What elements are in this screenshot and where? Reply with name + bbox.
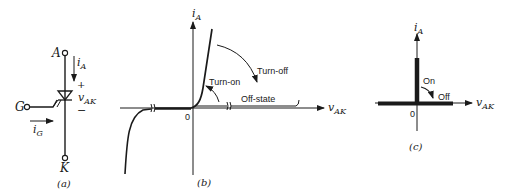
caption-b: (b) (197, 177, 211, 188)
c-x-axis-label: vAK (476, 96, 495, 111)
label-gate: G (15, 100, 25, 114)
label-turn-on: Turn-on (209, 77, 240, 87)
label-off-state: Off-state (241, 94, 275, 104)
c-y-axis-label: iA (414, 21, 424, 36)
gate-terminal (24, 104, 29, 109)
break-mark-right (227, 102, 231, 110)
gate-lead (30, 100, 57, 107)
thyristor-figure: A G K iA + vAK − iG (a) iA vAK 0 Turn-on… (0, 0, 510, 195)
label-cathode: K (59, 161, 70, 175)
on-to-off-arrow-icon (421, 87, 433, 98)
label-on: On (423, 76, 435, 86)
b-x-axis-label: vAK (328, 101, 347, 116)
caption-c: (c) (409, 141, 423, 152)
on-state-curve (191, 29, 212, 108)
turn-on-arrow-icon (206, 86, 219, 102)
gate-hatch (53, 100, 61, 107)
label-anode-current: iA (77, 56, 87, 71)
panel-a-thyristor-symbol (24, 50, 74, 160)
cathode-terminal (62, 155, 67, 160)
c-origin-label: 0 (410, 109, 415, 119)
label-turn-off: Turn-off (257, 66, 289, 76)
anode-terminal (62, 50, 67, 55)
reverse-breakdown-curve (125, 109, 151, 174)
label-minus: − (77, 104, 86, 117)
b-origin-label: 0 (185, 112, 190, 122)
label-anode: A (51, 46, 61, 60)
label-plus: + (77, 79, 85, 90)
panel-b-iv-characteristic (120, 22, 324, 175)
label-off: Off (438, 92, 450, 102)
caption-a: (a) (57, 178, 71, 189)
label-gate-current: iG (33, 123, 44, 138)
b-y-axis-label: iA (192, 7, 202, 22)
